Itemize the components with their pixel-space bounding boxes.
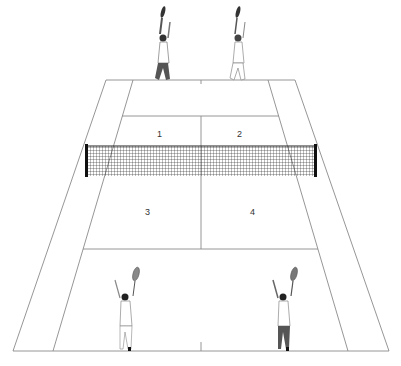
net [85, 144, 317, 177]
far-left-player-icon [155, 6, 170, 80]
service-box-3-label: 3 [145, 207, 150, 217]
service-box-4-label: 4 [250, 207, 255, 217]
service-box-2-label: 2 [237, 129, 242, 139]
service-box-1-label: 1 [157, 129, 162, 139]
near-left-player-icon [115, 266, 141, 351]
right-net-post [314, 144, 317, 177]
tennis-court-diagram: 1 2 3 4 [0, 0, 401, 366]
near-right-player-icon [273, 266, 299, 351]
left-net-post [85, 144, 88, 177]
court-svg: 1 2 3 4 [0, 0, 401, 366]
court-lines [13, 80, 389, 351]
right-doubles-sideline [295, 80, 389, 351]
left-doubles-sideline [13, 80, 106, 351]
far-right-player-icon [230, 6, 245, 80]
net-mesh [87, 146, 315, 176]
